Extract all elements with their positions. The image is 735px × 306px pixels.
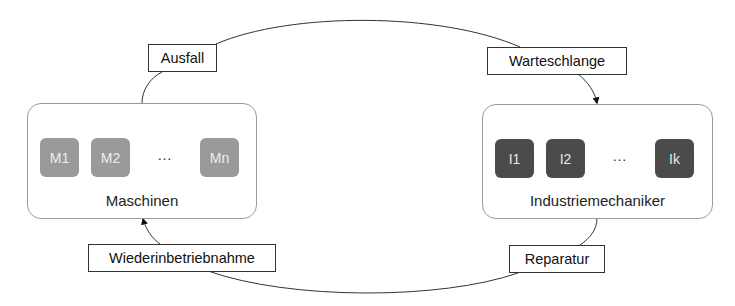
machine-unit: M1 [40,138,79,177]
edge-queue-to-mechanics [578,74,597,103]
mechanic-unit: Ik [655,139,694,178]
machines-group: M1 M2 … Mn Maschinen [27,103,257,219]
queue-label: Warteschlange [487,47,627,75]
edge-repair-to-recommission [208,271,518,293]
mechanic-unit: I1 [495,139,534,178]
machine-unit: Mn [200,138,239,177]
mechanic-unit: I2 [546,139,585,178]
edge-recommission-to-machines [143,219,160,244]
edge-machines-to-failure [142,72,162,103]
mechanics-ellipsis: … [612,147,629,164]
edge-mechanics-to-repair [580,218,597,245]
edge-failure-to-queue [216,20,520,47]
recommission-label: Wiederinbetriebnahme [88,244,276,272]
mechanics-group: I1 I2 … Ik Industriemechaniker [482,104,713,219]
machines-ellipsis: … [157,146,174,163]
repair-label: Reparatur [509,245,605,273]
machines-title: Maschinen [28,192,256,209]
failure-label: Ausfall [148,44,217,72]
machine-unit: M2 [91,138,130,177]
mechanics-title: Industriemechaniker [483,192,712,209]
